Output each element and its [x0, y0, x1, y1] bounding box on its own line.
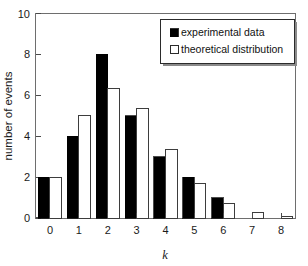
- x-tick-label-1: 1: [76, 224, 82, 236]
- chart-figure: 0 2 4 6 8 10 number of events 012345678 …: [0, 0, 308, 266]
- x-tick-label-0: 0: [47, 224, 53, 236]
- legend-swatch-experimental-icon: [170, 29, 178, 37]
- bar-theoretical-k4: [166, 149, 178, 218]
- bar-experimental-k2: [96, 54, 108, 218]
- bar-experimental-k1: [67, 136, 79, 218]
- x-tick-label-6: 6: [220, 224, 226, 236]
- x-tick-label-8: 8: [278, 224, 284, 236]
- x-tick-label-4: 4: [162, 224, 168, 236]
- y-tick-label-10: 10: [18, 8, 30, 20]
- bar-chart-svg: 0 2 4 6 8 10 number of events 012345678 …: [0, 0, 308, 266]
- bar-theoretical-k0: [50, 177, 62, 218]
- chart-legend: experimental data theoretical distributi…: [161, 20, 298, 67]
- bar-theoretical-k6: [223, 203, 235, 218]
- legend-label-experimental: experimental data: [181, 26, 265, 38]
- x-tick-label-7: 7: [249, 224, 255, 236]
- bar-theoretical-k5: [194, 184, 206, 218]
- bar-theoretical-k3: [137, 109, 149, 218]
- bar-theoretical-k7: [252, 212, 264, 218]
- y-axis-title: number of events: [2, 71, 14, 160]
- bar-experimental-k0: [38, 177, 50, 218]
- bar-experimental-k6: [212, 198, 224, 218]
- bar-experimental-k5: [183, 177, 195, 218]
- legend-swatch-theoretical-icon: [171, 45, 179, 53]
- x-axis-title: k: [162, 248, 168, 262]
- y-tick-label-8: 8: [24, 48, 30, 60]
- x-tick-label-2: 2: [105, 224, 111, 236]
- x-tick-label-5: 5: [191, 224, 197, 236]
- y-tick-label-4: 4: [24, 130, 30, 142]
- bar-experimental-k3: [125, 116, 137, 218]
- y-tick-label-0: 0: [24, 212, 30, 224]
- y-tick-label-2: 2: [24, 171, 30, 183]
- legend-label-theoretical: theoretical distribution: [181, 43, 283, 55]
- bar-experimental-k4: [154, 157, 166, 218]
- y-tick-label-6: 6: [24, 89, 30, 101]
- bar-theoretical-k1: [79, 116, 91, 218]
- bar-theoretical-k2: [108, 88, 120, 218]
- x-tick-label-3: 3: [134, 224, 140, 236]
- y-axis-tick-labels: 0 2 4 6 8 10: [18, 8, 30, 225]
- bar-theoretical-k8: [281, 217, 293, 218]
- x-axis-tick-labels: 012345678: [47, 224, 284, 236]
